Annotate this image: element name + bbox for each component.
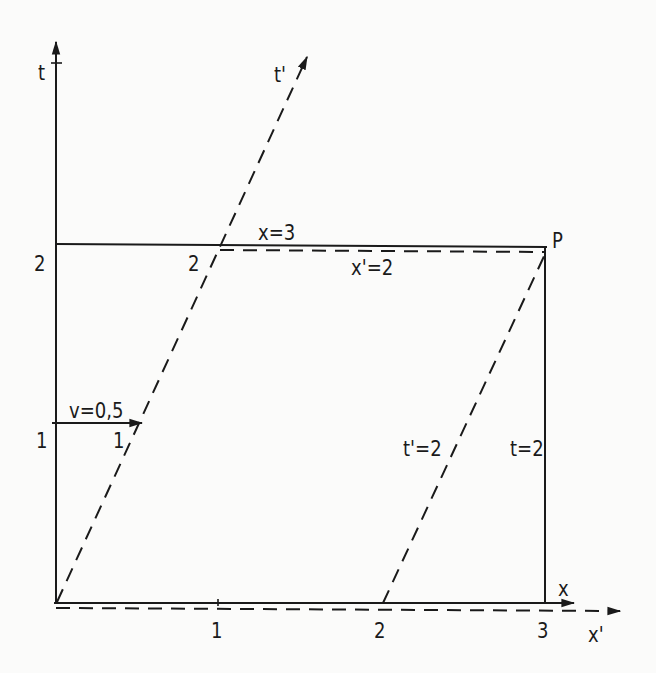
diagram-lines bbox=[0, 0, 656, 673]
x-prime-axis bbox=[56, 608, 620, 611]
x-tick-2-label: 2 bbox=[374, 620, 385, 642]
event-p-label: P bbox=[552, 230, 563, 252]
t-prime-tick-1-label: 1 bbox=[113, 430, 124, 452]
t-prime-2-line bbox=[383, 252, 546, 603]
t-prime-axis bbox=[57, 57, 307, 602]
t-prime-axis-label: t' bbox=[274, 64, 286, 86]
t-tick-1-label: 1 bbox=[36, 430, 47, 452]
t-axis-label: t bbox=[38, 62, 45, 84]
x-prime-axis-label: x' bbox=[588, 624, 604, 646]
spacetime-diagram: t t' x x' 2 1 2 1 1 2 3 v=0,5 x=3 x'=2 t… bbox=[0, 0, 656, 673]
t-prime-eq-2-label: t'=2 bbox=[403, 438, 442, 460]
velocity-label: v=0,5 bbox=[69, 400, 123, 422]
t-prime-tick-2-label: 2 bbox=[188, 253, 199, 275]
x-tick-3-label: 3 bbox=[537, 620, 548, 642]
x-prime-2-line bbox=[220, 250, 545, 252]
t-eq-2-label: t=2 bbox=[510, 438, 544, 460]
t2-line bbox=[56, 244, 547, 247]
x-eq-3-label: x=3 bbox=[258, 222, 295, 244]
x-tick-1-label: 1 bbox=[211, 620, 222, 642]
x-prime-eq-2-label: x'=2 bbox=[351, 257, 393, 279]
x-axis-label: x bbox=[558, 578, 569, 600]
t-tick-2-label: 2 bbox=[34, 253, 45, 275]
